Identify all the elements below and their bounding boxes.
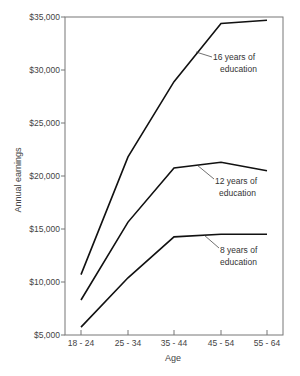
y-axis: $35,000 $30,000 $25,000 $20,000 $15,000 … xyxy=(13,12,65,340)
y-tick-label: $20,000 xyxy=(29,171,60,181)
y-axis-title: Annual earnings xyxy=(13,147,23,213)
y-tick-label: $30,000 xyxy=(29,65,60,75)
series-label-line2: education xyxy=(219,188,256,198)
series-annotation-12-years: 12 years of education xyxy=(197,165,258,198)
y-tick-label: $10,000 xyxy=(29,277,60,287)
x-tick-label: 55 - 64 xyxy=(254,338,281,348)
series-label-line2: education xyxy=(220,257,257,267)
x-tick-label: 25 - 34 xyxy=(115,338,142,348)
x-tick-label: 45 - 54 xyxy=(208,338,235,348)
y-tick-label: $25,000 xyxy=(29,118,60,128)
earnings-by-age-chart: $35,000 $30,000 $25,000 $20,000 $15,000 … xyxy=(0,0,300,376)
series-label-line1: 8 years of xyxy=(220,245,258,255)
x-tick-label: 35 - 44 xyxy=(161,338,188,348)
y-tick-label: $15,000 xyxy=(29,224,60,234)
x-tick-label: 18 - 24 xyxy=(68,338,95,348)
y-tick-label: $5,000 xyxy=(34,330,60,340)
series-annotation-8-years: 8 years of education xyxy=(204,235,258,267)
series-label-line1: 16 years of xyxy=(213,52,256,62)
y-tick-label: $35,000 xyxy=(29,12,60,22)
series-label-line2: education xyxy=(220,64,257,74)
x-axis-title: Age xyxy=(165,353,181,363)
series-annotation-16-years: 16 years of education xyxy=(196,52,257,74)
series-label-line1: 12 years of xyxy=(215,176,258,186)
